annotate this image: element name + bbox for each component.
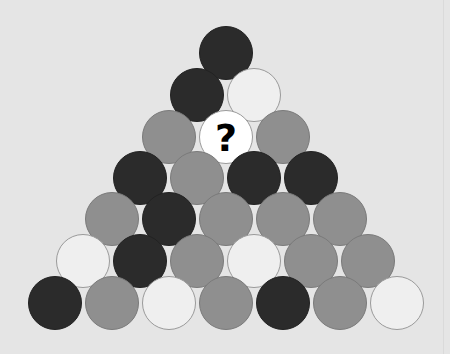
question-mark-icon: ? <box>215 119 237 157</box>
ball-dark <box>28 276 82 330</box>
ball-light <box>370 276 424 330</box>
ball-light <box>142 276 196 330</box>
ball-gray <box>199 276 253 330</box>
ball-gray <box>85 276 139 330</box>
ball-dark <box>256 276 310 330</box>
ball-gray <box>313 276 367 330</box>
edge-line <box>443 0 444 354</box>
ball-pyramid-puzzle: ? <box>0 0 450 354</box>
